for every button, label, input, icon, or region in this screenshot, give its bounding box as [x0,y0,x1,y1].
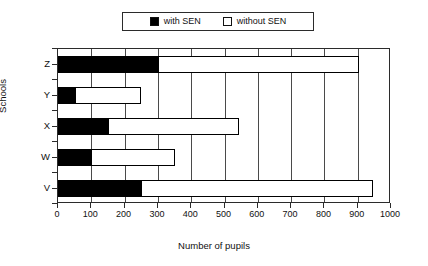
y-axis-tick [52,141,57,142]
x-axis-tick-label: 900 [349,209,364,219]
x-axis-tick-label: 100 [83,209,98,219]
bar-segment-without-sen [158,56,359,73]
bar-segment-without-sen [141,180,372,197]
bar-segment-with-sen [58,87,75,104]
x-axis-tick [57,203,58,208]
x-axis-title: Number of pupils [0,240,428,251]
y-axis-tick [52,157,57,158]
y-axis-tick-label: Z [44,59,50,69]
y-axis-tick [52,126,57,127]
x-axis-tick-label: 500 [216,209,231,219]
x-axis-tick [357,203,358,208]
legend-label-with-sen: with SEN [164,17,201,26]
bar-segment-with-sen [58,149,91,166]
y-axis-tick [52,64,57,65]
y-axis-tick-label: W [41,152,50,162]
y-axis-tick [52,48,57,49]
legend-swatch-hollow-square-icon [223,17,232,26]
legend-swatch-filled-square-icon [150,17,159,26]
x-axis-tick-label: 0 [54,209,59,219]
x-axis-tick [257,203,258,208]
y-axis-title: Schools [0,66,8,126]
plot-area [57,48,390,203]
bar-chart: with SEN without SEN 0100200300400500600… [0,0,428,266]
x-axis-tick [224,203,225,208]
x-axis-tick-label: 200 [116,209,131,219]
x-axis-tick-label: 1000 [380,209,400,219]
y-axis-tick-label: Y [44,90,50,100]
y-axis-tick [52,203,57,204]
legend-item-with-sen: with SEN [150,17,201,26]
bar-segment-with-sen [58,180,141,197]
y-axis-tick-label: X [44,121,50,131]
bar-segment-with-sen [58,56,158,73]
x-axis-tick-label: 800 [316,209,331,219]
x-axis-tick-label: 300 [149,209,164,219]
y-axis-tick [52,79,57,80]
y-axis-tick [52,172,57,173]
x-axis-tick [90,203,91,208]
bar-segment-without-sen [108,118,240,135]
y-axis-tick-label: V [44,183,50,193]
y-axis-tick [52,110,57,111]
x-axis-tick [390,203,391,208]
x-axis-tick [290,203,291,208]
x-axis-tick-label: 400 [183,209,198,219]
x-axis-tick [190,203,191,208]
x-axis-tick [124,203,125,208]
y-axis-tick [52,95,57,96]
bar-segment-with-sen [58,118,108,135]
x-axis-tick-label: 600 [249,209,264,219]
legend-item-without-sen: without SEN [223,17,287,26]
y-axis-tick [52,188,57,189]
bar-segment-without-sen [75,87,142,104]
legend-label-without-sen: without SEN [237,17,287,26]
x-axis-tick [157,203,158,208]
x-axis-tick-label: 700 [283,209,298,219]
x-axis-tick [323,203,324,208]
chart-legend: with SEN without SEN [122,12,314,31]
bar-segment-without-sen [91,149,174,166]
